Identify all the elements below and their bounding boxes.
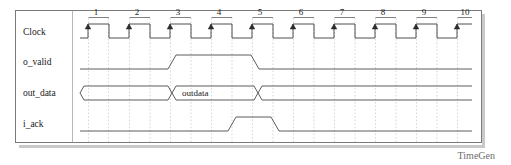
cycle-number: 3 — [176, 7, 181, 17]
timing-diagram-canvas: Clock o_valid out_data i_ack 1 2 3 4 5 6… — [0, 0, 511, 165]
cycle-number: 5 — [258, 7, 263, 17]
cycle-number: 7 — [340, 7, 345, 17]
footer-label-timegen: TimeGen — [458, 150, 495, 161]
timing-diagram-root: Clock o_valid out_data i_ack 1 2 3 4 5 6… — [0, 0, 511, 165]
cycle-number: 10 — [461, 7, 471, 17]
cycle-number: 1 — [94, 7, 99, 17]
bus-value-label: outdata — [182, 88, 209, 98]
waveform-out-data — [80, 86, 472, 100]
cycle-number: 2 — [135, 7, 140, 17]
signal-label-i-ack: i_ack — [23, 119, 44, 129]
cycle-number: 4 — [217, 7, 222, 17]
cycle-number: 9 — [422, 7, 427, 17]
cycle-numbers: 1 2 3 4 5 6 7 8 9 10 — [94, 7, 470, 17]
waveform-clock — [80, 24, 472, 38]
signal-label-clock: Clock — [23, 27, 46, 37]
waveform-i-ack — [80, 117, 472, 131]
cycle-number: 8 — [381, 7, 386, 17]
signal-label-o-valid: o_valid — [23, 57, 52, 67]
signal-label-out-data: out_data — [23, 88, 56, 98]
clock-rising-edge-arrow-icons — [85, 24, 460, 29]
cycle-number: 6 — [299, 7, 304, 17]
waveform-o-valid — [80, 55, 472, 69]
diagram-frame — [16, 11, 482, 143]
